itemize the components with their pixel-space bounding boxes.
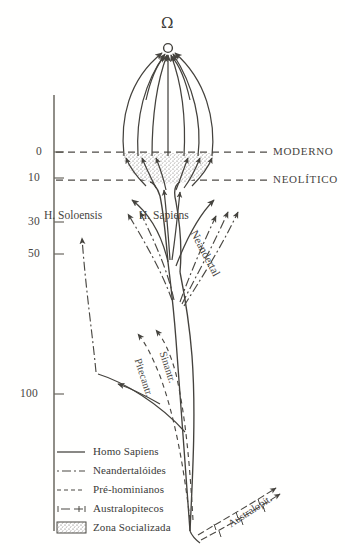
- legend-swatch-plusdash: [58, 506, 85, 512]
- era-label-neolitico: NEOLÍTICO: [273, 173, 338, 185]
- h-soloensis-branch: [82, 238, 96, 372]
- axis-tick-100: 100: [20, 387, 38, 399]
- label-h-soloensis: H. Soloensis: [44, 209, 102, 221]
- convergence-fan: [123, 53, 213, 156]
- axis-tick-30: 30: [28, 215, 40, 227]
- axis-tick-50: 50: [28, 247, 40, 259]
- legend-swatch-stipple: [57, 522, 86, 533]
- australopithecine-trunk-link: [190, 531, 200, 543]
- legend-label-zona-socializada: Zona Socializada: [93, 521, 171, 533]
- time-axis: [54, 95, 64, 531]
- legend-label-neandertaloides: Neandertalóides: [93, 464, 166, 476]
- homo-sapiens-trunk: [150, 182, 194, 531]
- legend-label-australopitecos: Australopitecos: [93, 502, 164, 514]
- evolution-diagram: Ω 0 10 30 50 100 MODERNO NEOLÍTICO H. So…: [0, 0, 345, 555]
- legend-label-pre-hominianos: Pré-hominianos: [93, 483, 164, 495]
- legend-swatches: [57, 452, 86, 533]
- axis-tick-0: 0: [36, 145, 42, 157]
- label-h-sapiens: H. Sapiens: [139, 209, 189, 221]
- era-label-moderno: MODERNO: [273, 145, 334, 157]
- zona-socializada-area: [122, 153, 214, 184]
- neandertaloid-branches: [128, 212, 238, 306]
- omega-symbol: Ω: [161, 14, 173, 32]
- diagram-canvas: [0, 0, 345, 555]
- axis-tick-10: 10: [28, 171, 40, 183]
- omega-node: [164, 44, 173, 53]
- legend-label-homo-sapiens: Homo Sapiens: [93, 445, 159, 457]
